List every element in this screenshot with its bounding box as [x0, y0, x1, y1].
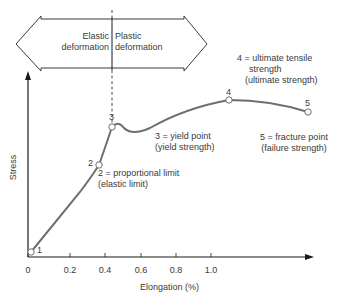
annotation-line: 3 = yield point: [155, 131, 215, 142]
x-tick-label: 1.0: [205, 265, 218, 275]
annotation-line: (yield strength): [155, 142, 215, 153]
proportional-limit-annotation: 2 = proportional limit (elastic limit): [98, 168, 179, 190]
plastic-deformation-label: Plastic deformation: [115, 31, 163, 53]
y-axis-label: Stress: [8, 153, 19, 183]
elastic-deformation-label: Elastic deformation: [50, 31, 109, 53]
annotation-line: (failure strength): [252, 143, 336, 154]
point-5-label: 5: [305, 98, 310, 108]
plastic-line-2: deformation: [115, 42, 163, 53]
x-axis-label: Elongation (%): [140, 282, 199, 293]
annotation-line: 5 = fracture point: [252, 132, 336, 143]
point-4-label: 4: [226, 87, 231, 97]
x-tick-label: 0.2: [64, 265, 77, 275]
x-tick-label: 0.4: [99, 265, 112, 275]
x-tick-label: 0.6: [135, 265, 148, 275]
x-tick-label: 0: [25, 265, 30, 275]
fracture-point-annotation: 5 = fracture point (failure strength): [252, 132, 336, 154]
point-1-marker: [28, 249, 34, 255]
point-5-marker: [305, 109, 311, 115]
annotation-line: strength: [225, 64, 335, 75]
y-axis-arrow-icon: [25, 71, 31, 80]
yield-point-annotation: 3 = yield point (yield strength): [155, 131, 215, 153]
point-3-label: 3: [109, 112, 114, 122]
point-1-label: 1: [37, 245, 42, 255]
point-2-label: 2: [88, 158, 93, 168]
elastic-line-2: deformation: [50, 42, 109, 53]
elastic-line-1: Elastic: [50, 31, 109, 42]
ultimate-strength-annotation: 4 = ultimate tensile strength (ultimate …: [225, 53, 335, 86]
annotation-line: 2 = proportional limit: [98, 168, 179, 179]
x-tick-label: 0.8: [170, 265, 183, 275]
x-axis-arrow-icon: [305, 254, 314, 260]
point-4-marker: [226, 97, 232, 103]
annotation-line: 4 = ultimate tensile: [225, 53, 335, 64]
annotation-line: (elastic limit): [98, 179, 179, 190]
annotation-line: (ultimate strength): [225, 75, 335, 86]
plastic-line-1: Plastic: [115, 31, 163, 42]
point-3-marker: [109, 124, 115, 130]
